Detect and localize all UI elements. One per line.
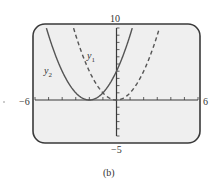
y1-label-sub: 1 — [91, 56, 95, 64]
margin-mark — [3, 101, 5, 103]
ymin-label: −5 — [111, 145, 122, 155]
y1-curve-label: y1 — [87, 51, 95, 64]
y2-label-sub: 2 — [48, 71, 52, 79]
figure-caption: (b) — [103, 168, 115, 178]
xmin-label: −6 — [19, 97, 30, 107]
xmax-label: 6 — [203, 97, 208, 107]
ymax-label: 10 — [110, 14, 120, 24]
graphing-calculator-figure: 10 −5 −6 6 y1 y2 (b) — [0, 0, 212, 186]
y2-curve-label: y2 — [44, 66, 52, 79]
plot-svg — [0, 0, 212, 186]
